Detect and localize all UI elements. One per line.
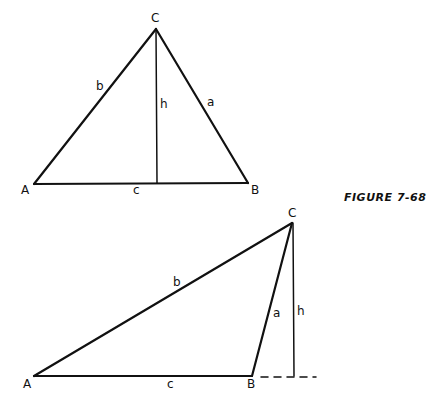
side-a-top <box>156 29 248 183</box>
side-c-bottom-label: c <box>167 378 174 390</box>
vertex-c-bottom-label: C <box>288 207 296 219</box>
vertex-c-top-label: C <box>151 12 159 24</box>
side-b-bottom-label: b <box>173 276 181 288</box>
side-c-top <box>34 183 248 184</box>
side-a-top-label: a <box>207 96 214 108</box>
vertex-a-bottom-label: A <box>23 378 31 390</box>
altitude-h-bottom <box>293 223 294 376</box>
side-b-top-label: b <box>96 80 104 92</box>
height-h-top-label: h <box>160 98 168 110</box>
side-b-top <box>34 29 156 184</box>
vertex-b-bottom-label: B <box>247 378 255 390</box>
side-c-top-label: c <box>133 184 140 196</box>
side-b-bottom <box>34 223 292 376</box>
height-h-bottom-label: h <box>297 305 305 317</box>
altitude-h-top <box>156 29 157 183</box>
bottom-triangle <box>34 223 316 377</box>
vertex-a-top-label: A <box>21 184 29 196</box>
side-a-bottom <box>252 223 292 376</box>
side-a-bottom-label: a <box>273 307 280 319</box>
vertex-b-top-label: B <box>251 184 259 196</box>
top-triangle <box>34 29 248 184</box>
figure-caption: FIGURE 7-68 <box>344 191 426 204</box>
figure-diagram <box>0 0 430 408</box>
